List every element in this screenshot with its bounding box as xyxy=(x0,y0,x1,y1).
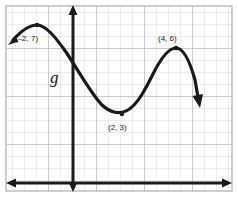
graph-figure: g (–2, 7) (2, 3) (4, 6) xyxy=(0,0,238,197)
graph-canvas: g (–2, 7) (2, 3) (4, 6) xyxy=(0,0,238,197)
point-label-2-3: (2, 3) xyxy=(108,123,127,132)
point-marker-local-max-left xyxy=(35,23,39,27)
point-marker-local-min xyxy=(120,112,124,116)
function-label-g: g xyxy=(50,68,59,87)
point-label-4-6: (4, 6) xyxy=(158,34,177,43)
point-label-minus2-7: (–2, 7) xyxy=(15,34,38,43)
point-marker-local-max-right xyxy=(174,46,178,50)
